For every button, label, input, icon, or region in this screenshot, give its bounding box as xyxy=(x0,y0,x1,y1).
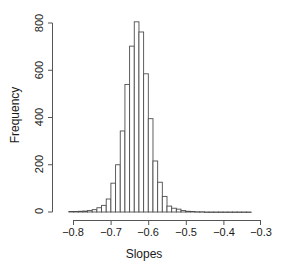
histogram-bar xyxy=(111,183,116,212)
histogram-bar xyxy=(116,165,121,212)
histogram-bar xyxy=(134,22,139,212)
histogram-bar xyxy=(83,211,88,212)
histogram-bar xyxy=(158,182,163,212)
histogram-bar xyxy=(88,211,93,212)
histogram-bar xyxy=(186,211,191,212)
histogram-bar xyxy=(120,131,125,212)
histogram-bar xyxy=(102,205,107,212)
plot-canvas xyxy=(0,0,288,276)
histogram-bar xyxy=(144,74,149,212)
histogram-bar xyxy=(78,211,83,212)
histogram-bar xyxy=(92,210,97,212)
y-axis-group xyxy=(48,23,53,212)
histogram-bar xyxy=(162,196,167,212)
histogram-bar xyxy=(130,46,135,212)
histogram-bar xyxy=(148,119,153,212)
histogram-figure: Frequency Slopes 0 200 400 600 800 −0.8 … xyxy=(0,0,288,276)
histogram-bar xyxy=(181,211,186,212)
histogram-bar xyxy=(153,161,158,212)
histogram-bar xyxy=(167,206,172,212)
histogram-bar xyxy=(106,199,111,212)
x-axis-group xyxy=(73,221,261,226)
histogram-bar xyxy=(139,32,144,212)
histogram-bar xyxy=(172,208,177,212)
histogram-bar xyxy=(97,208,102,212)
histogram-bars xyxy=(69,22,251,213)
histogram-bar xyxy=(176,209,181,212)
histogram-bar xyxy=(125,84,130,212)
